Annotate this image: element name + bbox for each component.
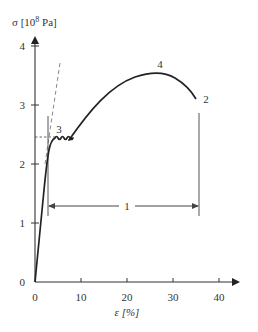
annotation-1: 1 <box>124 200 130 212</box>
y-axis-label: σ [108 Pa] <box>12 15 57 28</box>
x-tick-40: 40 <box>214 291 226 303</box>
y-tick-1: 1 <box>20 217 26 229</box>
x-tick-30: 30 <box>168 291 180 303</box>
y-tick-2: 2 <box>20 158 26 170</box>
stress-strain-chart: 0 1 2 3 4 0 10 20 30 40 σ [108 Pa] ε [%]… <box>0 0 258 332</box>
x-tick-10: 10 <box>76 291 88 303</box>
x-tick-0: 0 <box>32 291 38 303</box>
elastic-slope-dashed-line <box>45 63 60 164</box>
x-axis-label: ε [%] <box>115 306 140 318</box>
y-tick-0: 0 <box>20 276 26 288</box>
y-tick-labels: 0 1 2 3 4 <box>20 40 26 288</box>
x-tick-labels: 0 10 20 30 40 <box>32 291 225 303</box>
annotation-3: 3 <box>56 123 62 135</box>
y-tick-3: 3 <box>20 99 26 111</box>
x-tick-20: 20 <box>122 291 134 303</box>
y-tick-4: 4 <box>20 40 26 52</box>
annotation-4: 4 <box>157 58 163 70</box>
stress-strain-curve <box>35 73 196 282</box>
annotation-2: 2 <box>203 93 209 105</box>
x-ticks <box>81 278 219 282</box>
